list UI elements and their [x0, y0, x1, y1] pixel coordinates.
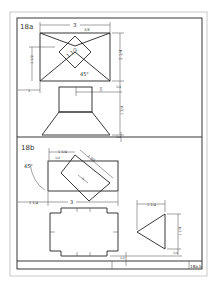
- b-dim-width: 3: [70, 199, 73, 205]
- a-dim-width: 3: [73, 22, 77, 28]
- technical-drawing-sheet: 18a,b 18a 1 1/2 45° 3 3/8 1 1/2 2 1/4 1 …: [0, 0, 224, 290]
- b-dim-bottom-gap: 1/2: [120, 256, 125, 260]
- a-top-view-rect: [40, 33, 110, 81]
- inner-border: [17, 18, 202, 269]
- b-dim-top-offset: 1 1/4: [58, 150, 68, 154]
- b-dim-diag: 1 3/4: [87, 154, 97, 163]
- a-angle-label: 45°: [80, 71, 89, 77]
- a-dim-gap: 1/4: [116, 85, 121, 89]
- a-dim-offset-left: 1: [28, 89, 30, 93]
- a-top-view-envelope-bottom: [40, 52, 110, 81]
- a-dim-small-top: 3/8: [84, 28, 90, 32]
- a-front-view-trapezoid: [42, 112, 110, 135]
- a-front-view-box: [59, 87, 92, 112]
- b-dim-tri-bottom: 1/4: [173, 251, 178, 255]
- b-dim-angle: 45°: [24, 163, 33, 169]
- a-dim-front-height: 1 3/4: [120, 105, 124, 115]
- b-rotated-square: [61, 155, 110, 201]
- b-dim-inner: 1: [82, 177, 84, 181]
- a-diameter-label: 1 1/2: [65, 46, 79, 59]
- sheet-label: 18a,b: [190, 264, 202, 269]
- a-dim-bottom: 1/4: [116, 135, 121, 139]
- b-dim-diag-line: [80, 150, 113, 178]
- problem-b-label: 18b: [21, 144, 35, 152]
- b-triangle-view: [137, 214, 165, 249]
- b-dim-depth: 1/4: [55, 156, 60, 160]
- a-dim-left-height: 1 1/2: [30, 55, 34, 64]
- a-dim-front-small: 1/4: [99, 87, 103, 92]
- b-dim-left-offset: 1 1/4: [29, 201, 39, 205]
- b-dim-tri-width: 1 1/4: [147, 203, 157, 207]
- b-top-view-rect: [48, 161, 118, 191]
- a-top-view-envelope-top: [40, 33, 110, 46]
- b-pattern-outline: [50, 208, 118, 256]
- b-dim-tri-height: 1 1/4: [178, 226, 182, 236]
- a-dim-right-height: 2 1/4: [118, 49, 123, 60]
- problem-a-label: 18a: [20, 23, 33, 31]
